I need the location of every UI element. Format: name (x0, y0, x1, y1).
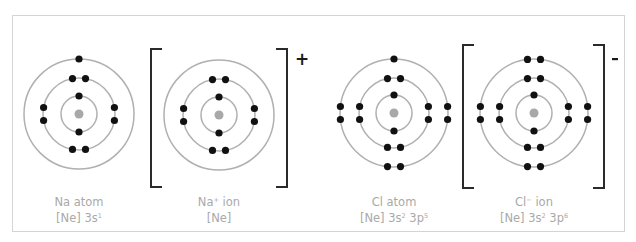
electron (524, 163, 531, 170)
cl-atom-model (337, 55, 451, 170)
electron (384, 163, 391, 170)
electron (82, 146, 89, 153)
electron (496, 103, 503, 110)
electron (524, 56, 531, 63)
electron (215, 129, 222, 136)
electron (477, 116, 484, 123)
electron (537, 144, 544, 151)
electron (444, 103, 451, 110)
config-superscript: 5 (424, 212, 428, 220)
na-atom-model (24, 55, 134, 169)
nucleus (215, 111, 224, 120)
na-ion-model (164, 60, 274, 170)
cl-ion-charge (612, 58, 618, 60)
electron (565, 116, 572, 123)
electron (40, 104, 47, 111)
electron (390, 91, 397, 98)
name-text: ion (532, 195, 553, 209)
cl-atom-name: Cl atom (324, 194, 464, 210)
electron (397, 75, 404, 82)
electron (524, 75, 531, 82)
na-ion-right-bracket (276, 49, 287, 187)
electron (40, 117, 47, 124)
cl-ion-name: Cl− ion (464, 194, 604, 210)
electron (530, 91, 537, 98)
electron (75, 55, 82, 62)
electron (444, 116, 451, 123)
electron (209, 147, 216, 154)
electron (356, 116, 363, 123)
electron (337, 116, 344, 123)
electron (69, 146, 76, 153)
config-superscript: 6 (564, 212, 568, 220)
electron (75, 92, 82, 99)
electron (524, 144, 531, 151)
electron (180, 105, 187, 112)
symbol-text: Na (198, 195, 214, 209)
electron (251, 118, 258, 125)
na-ion-charge: + (295, 49, 309, 69)
electron (75, 128, 82, 135)
electron (584, 116, 591, 123)
electron (82, 75, 89, 82)
electron (69, 75, 76, 82)
electron (537, 75, 544, 82)
electron (111, 104, 118, 111)
electron (222, 147, 229, 154)
electron (356, 103, 363, 110)
electron (537, 56, 544, 63)
cl-ion-model (477, 56, 591, 170)
electron (180, 118, 187, 125)
electron (390, 127, 397, 134)
electron (337, 103, 344, 110)
electron (390, 55, 397, 62)
cl-ion-left-bracket (463, 45, 474, 188)
electron (397, 144, 404, 151)
electron (496, 116, 503, 123)
nucleus (75, 110, 84, 119)
symbol-text: Cl (515, 195, 526, 209)
cl-ion-label: Cl− ion [Ne] 3s2 3p6 (464, 194, 604, 226)
electron (425, 116, 432, 123)
nucleus (390, 109, 399, 118)
electron (251, 105, 258, 112)
na-atom-name: Na atom (9, 194, 149, 210)
config-text: [Ne] 3s (500, 211, 542, 225)
na-ion-name: Na+ ion (149, 194, 289, 210)
electron (209, 76, 216, 83)
cl-atom-config: [Ne] 3s2 3p5 (324, 210, 464, 226)
na-ion-label: Na+ ion [Ne] (149, 194, 289, 226)
electron (384, 75, 391, 82)
cl-ion-right-bracket (593, 45, 604, 188)
name-text: ion (219, 195, 240, 209)
na-ion-config: [Ne] (149, 210, 289, 226)
electron (477, 103, 484, 110)
config-text: [Ne] 3s (360, 211, 402, 225)
config-text: [Ne] 3s (56, 211, 98, 225)
electron (111, 117, 118, 124)
electron (584, 103, 591, 110)
electron (537, 163, 544, 170)
cl-ion-config: [Ne] 3s2 3p6 (464, 210, 604, 226)
electron (384, 144, 391, 151)
electron (530, 127, 537, 134)
electron (397, 163, 404, 170)
electron (222, 76, 229, 83)
electron (425, 103, 432, 110)
cl-atom-label: Cl atom [Ne] 3s2 3p5 (324, 194, 464, 226)
config-superscript: 1 (98, 212, 102, 220)
nucleus (530, 109, 539, 118)
electron (215, 93, 222, 100)
config-text: 3p (406, 211, 424, 225)
na-atom-label: Na atom [Ne] 3s1 (9, 194, 149, 226)
config-text: 3p (546, 211, 564, 225)
na-atom-config: [Ne] 3s1 (9, 210, 149, 226)
electron (565, 103, 572, 110)
na-ion-left-bracket (151, 49, 162, 187)
